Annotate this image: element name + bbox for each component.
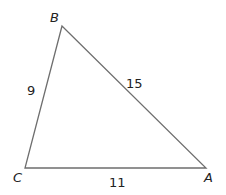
side-bc-length: 9 (27, 83, 35, 98)
triangle-diagram: B C A 9 15 11 (0, 0, 226, 195)
vertex-b-label: B (50, 10, 59, 25)
vertex-a-label: A (203, 170, 213, 185)
triangle-abc (25, 26, 206, 168)
vertex-c-label: C (13, 170, 23, 185)
side-ca-length: 11 (109, 175, 126, 190)
side-ab-length: 15 (126, 76, 143, 91)
